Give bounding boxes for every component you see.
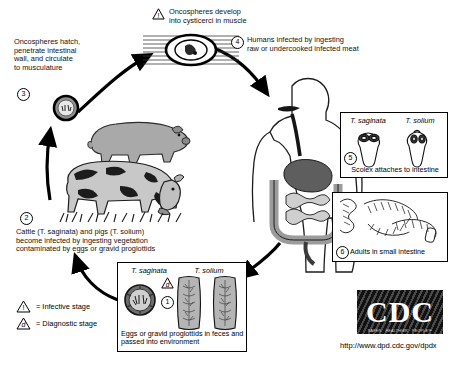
cysticerci-label: Oncospheres develop into cysticerci in m… xyxy=(169,8,289,25)
adults-caption: Adults in small intestine xyxy=(350,248,446,256)
scolex-illustration xyxy=(342,126,446,168)
cdc-logo-box: CDC SAFER · HEALTHIER · PEOPLE™ xyxy=(357,290,443,334)
scolex-title-solium: T. solium xyxy=(396,116,444,125)
step-4-line2: raw or undercooked infected meat xyxy=(247,44,359,53)
adults-illustration xyxy=(334,194,446,246)
oncosphere-illustration xyxy=(51,93,81,123)
svg-text:!: ! xyxy=(158,12,160,19)
step-3-marker: 3 xyxy=(17,88,30,101)
step-2-marker: 2 xyxy=(20,212,33,225)
scolex-title-saginata: T. saginata xyxy=(344,116,392,125)
eggs-title-saginata: T. saginata xyxy=(121,266,177,275)
step-3-line4: to musculature xyxy=(14,63,62,72)
step-4-marker: 4 xyxy=(231,36,244,49)
proglottid-illustration xyxy=(175,274,247,332)
step-2-text: Cattle (T. saginata) and pigs (T. solium… xyxy=(16,228,246,254)
step-2-line3: contaminated by eggs or gravid proglotti… xyxy=(16,244,155,253)
step-6-marker: 6 xyxy=(336,246,349,259)
eggs-caption: Eggs or gravid proglottids in feces and … xyxy=(121,330,245,347)
cdc-url[interactable]: http://www.dpd.cdc.gov/dpdx xyxy=(340,341,437,350)
cysticercus-illustration xyxy=(139,30,249,72)
legend-infective-label: = Infective stage xyxy=(36,302,90,311)
svg-text:d: d xyxy=(166,281,170,288)
egg-illustration xyxy=(122,282,158,318)
legend-diagnostic-label: = Diagnostic stage xyxy=(36,319,97,328)
cysticerci-line2: into cysticerci in muscle xyxy=(169,16,247,25)
cdc-logo-tagline: SAFER · HEALTHIER · PEOPLE™ xyxy=(357,329,443,333)
step-4-text: Humans infected by ingesting raw or unde… xyxy=(247,36,422,53)
arrow-animals-to-oncosphere xyxy=(47,132,50,200)
svg-text:!: ! xyxy=(22,303,24,312)
arrow-eggs-to-animals xyxy=(76,258,118,300)
life-cycle-diagram: ! Oncospheres develop into cysticerci in… xyxy=(0,0,454,366)
step-5-marker: 5 xyxy=(344,152,357,165)
cow-illustration xyxy=(60,152,190,230)
scolex-caption: Scolex attaches to intestine xyxy=(343,166,447,174)
step-3-text: Oncospheres hatch, penetrate intestinal … xyxy=(14,38,119,72)
cdc-logo: CDC SAFER · HEALTHIER · PEOPLE™ xyxy=(357,290,443,334)
step-1-marker: 1 xyxy=(161,296,174,309)
cdc-logo-text: CDC xyxy=(357,290,443,334)
